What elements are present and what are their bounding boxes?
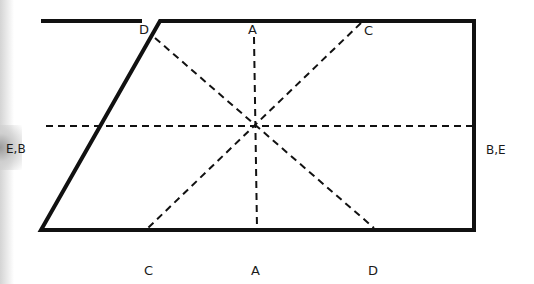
label-bottom-c: C bbox=[144, 264, 153, 277]
line-a-a bbox=[254, 37, 257, 228]
line-d-d bbox=[155, 38, 374, 228]
label-right-be: B,E bbox=[486, 144, 506, 156]
label-bottom-d: D bbox=[368, 264, 378, 277]
label-bottom-a: A bbox=[251, 264, 260, 277]
diagram-canvas bbox=[0, 0, 534, 284]
label-top-a: A bbox=[248, 23, 257, 36]
label-top-d: D bbox=[139, 23, 149, 36]
label-top-c: C bbox=[364, 24, 373, 37]
label-left-eb: E,B bbox=[6, 143, 26, 155]
